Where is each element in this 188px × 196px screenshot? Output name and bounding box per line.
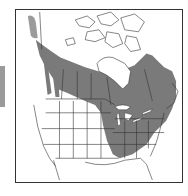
- arctic-islands: [65, 12, 144, 52]
- range-map: Species range map: [15, 9, 183, 183]
- north-america-map: [16, 10, 182, 182]
- side-tab: [0, 66, 5, 107]
